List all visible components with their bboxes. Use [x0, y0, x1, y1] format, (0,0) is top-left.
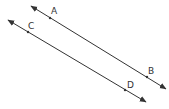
line-ab [31, 6, 166, 89]
point-label-b: B [148, 66, 154, 76]
point-d [124, 89, 126, 91]
point-b [146, 76, 148, 78]
point-label-a: A [51, 6, 58, 16]
point-label-d: D [127, 80, 134, 90]
parallel-lines-diagram: ABCD [0, 0, 169, 109]
point-a [49, 17, 51, 19]
point-label-c: C [28, 21, 34, 31]
point-c [27, 31, 29, 33]
